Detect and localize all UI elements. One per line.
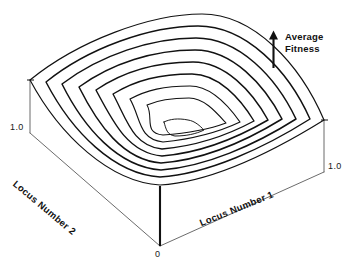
axis-tick-locus1-max: 1.0 (328, 161, 342, 171)
fitness-label-line-2: Fitness (285, 43, 324, 55)
up-arrow-icon (268, 30, 279, 68)
average-fitness-label: Average Fitness (285, 30, 324, 54)
axis-tick-origin: 0 (155, 249, 160, 259)
axis-tick-locus2-max: 1.0 (10, 122, 24, 132)
fitness-label-line-1: Average (285, 31, 324, 43)
average-fitness-legend: Average Fitness (268, 30, 324, 68)
